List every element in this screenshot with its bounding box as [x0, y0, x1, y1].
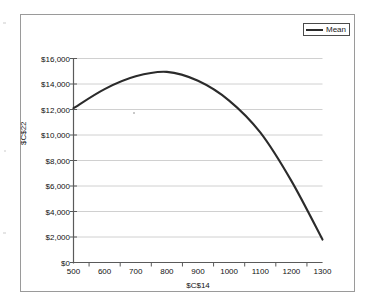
- x-axis-tick-label: 900: [191, 267, 204, 276]
- x-axis-tick-label: 500: [67, 267, 80, 276]
- legend-line-swatch: [306, 29, 323, 31]
- x-axis-tick-label: 1200: [282, 267, 300, 276]
- x-axis-tick-label: 700: [129, 267, 142, 276]
- x-axis-tick-labels: 5006007008009001000110012001300: [0, 0, 373, 308]
- x-axis-title: $C$14: [73, 281, 323, 290]
- x-axis-tick-label: 1000: [220, 267, 238, 276]
- x-axis-tick-label: 800: [160, 267, 173, 276]
- x-axis-tick-label: 1300: [314, 267, 332, 276]
- x-axis-tick-label: 600: [98, 267, 111, 276]
- x-axis-tick-label: 1100: [252, 267, 269, 276]
- scan-artifact: [133, 112, 135, 114]
- y-axis-title: $C$22: [19, 121, 28, 145]
- chart-legend: Mean: [303, 23, 350, 36]
- legend-label-mean: Mean: [326, 25, 346, 34]
